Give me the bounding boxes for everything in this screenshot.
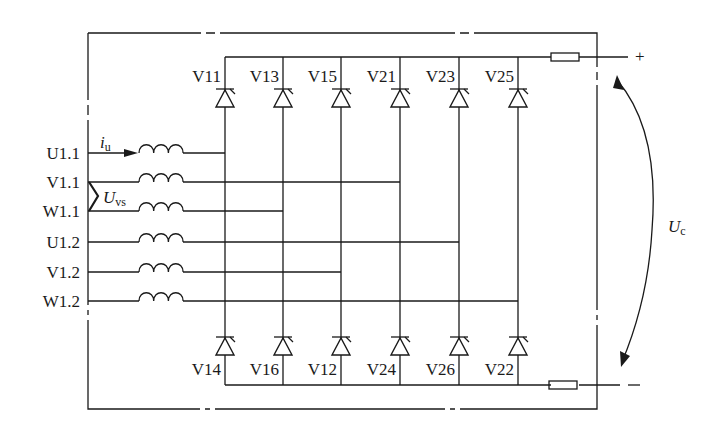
inductor-icon <box>139 234 183 242</box>
thyristor-upper: V23 <box>426 67 469 107</box>
thyristor-label: V25 <box>485 67 514 86</box>
phase-label: V1.1 <box>46 173 80 192</box>
fuse-positive <box>551 53 579 61</box>
phase-label: V1.2 <box>46 263 80 282</box>
current-arrow-iu: iu <box>88 133 138 157</box>
input-line: V1.1 <box>46 173 400 192</box>
dc-voltage-arrow-uc: Uc <box>613 75 686 367</box>
thyristor-label: V26 <box>426 360 455 379</box>
inductor-icon <box>139 174 183 182</box>
inductor-icon <box>139 203 183 211</box>
thyristor-label: V21 <box>367 67 396 86</box>
thyristor-upper: V13 <box>250 67 293 107</box>
input-line: W1.1 <box>43 202 283 221</box>
thyristor-label: V14 <box>192 360 222 379</box>
phase-label: W1.1 <box>43 202 80 221</box>
input-line: V1.2 <box>46 263 341 282</box>
thyristor-label: V16 <box>250 360 279 379</box>
thyristor-label: V11 <box>192 67 221 86</box>
inductor-icon <box>139 145 183 153</box>
thyristor-label: V15 <box>308 67 337 86</box>
thyristor-column: V11V14 <box>192 57 235 385</box>
input-line: U1.2 <box>46 233 459 252</box>
svg-text:Uvs: Uvs <box>103 188 126 209</box>
thyristor-column: V15V12 <box>308 57 351 385</box>
thyristor-column: V21V24 <box>367 57 410 385</box>
thyristor-lower: V14 <box>192 337 235 379</box>
thyristor-lower: V16 <box>250 337 293 379</box>
input-line: W1.2 <box>43 292 518 311</box>
rectifier-circuit-diagram: + V11V14V13V16V15V12V21V24V23V26V25V22 U… <box>0 0 722 443</box>
thyristor-lower: V24 <box>367 337 410 379</box>
plus-terminal: + <box>635 47 645 66</box>
thyristor-column: V23V26 <box>426 57 469 385</box>
thyristor-label: V13 <box>250 67 279 86</box>
ac-inputs: U1.1V1.1W1.1U1.2V1.2W1.2 <box>43 144 518 311</box>
thyristor-upper: V25 <box>485 67 528 107</box>
thyristor-label: V12 <box>308 360 337 379</box>
thyristor-lower: V12 <box>308 337 351 379</box>
thyristor-columns: V11V14V13V16V15V12V21V24V23V26V25V22 <box>192 57 528 385</box>
thyristor-column: V25V22 <box>485 57 528 385</box>
thyristor-lower: V22 <box>485 337 528 379</box>
thyristor-label: V23 <box>426 67 455 86</box>
inductor-icon <box>139 293 183 301</box>
thyristor-column: V13V16 <box>250 57 293 385</box>
phase-label: W1.2 <box>43 292 80 311</box>
phase-label: U1.1 <box>46 144 80 163</box>
phase-label: U1.2 <box>46 233 80 252</box>
thyristor-upper: V11 <box>192 67 235 107</box>
thyristor-upper: V21 <box>367 67 410 107</box>
fuse-negative <box>549 381 577 389</box>
inductor-icon <box>139 264 183 272</box>
voltage-uvs-marker: Uvs <box>89 182 126 211</box>
thyristor-upper: V15 <box>308 67 351 107</box>
svg-text:Uc: Uc <box>668 217 686 238</box>
svg-text:iu: iu <box>100 133 111 154</box>
thyristor-label: V24 <box>367 360 397 379</box>
thyristor-label: V22 <box>485 360 514 379</box>
thyristor-lower: V26 <box>426 337 469 379</box>
